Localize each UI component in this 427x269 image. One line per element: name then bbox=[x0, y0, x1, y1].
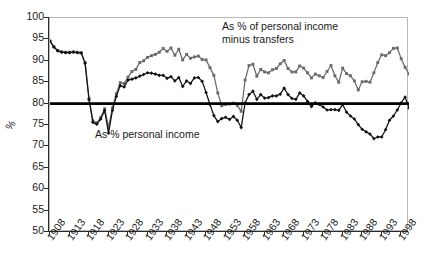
y-tick-mark bbox=[44, 231, 48, 232]
upper-annotation-line2: minus transfers bbox=[222, 33, 294, 45]
plot-area bbox=[49, 17, 408, 231]
y-tick-label: 50 bbox=[18, 225, 44, 235]
x-tick-mark bbox=[186, 232, 187, 236]
y-tick-label: 95 bbox=[18, 32, 44, 42]
y-tick-mark bbox=[44, 167, 48, 168]
x-tick-mark bbox=[205, 232, 206, 236]
y-tick-mark bbox=[44, 124, 48, 125]
x-tick-mark bbox=[69, 232, 70, 236]
x-tick-mark bbox=[264, 232, 265, 236]
y-tick-mark bbox=[44, 60, 48, 61]
x-tick-mark bbox=[49, 232, 50, 236]
chart-root: 10095908580757065605550 % 19081913191819… bbox=[0, 0, 427, 269]
x-tick-mark bbox=[381, 232, 382, 236]
y-tick-label: 65 bbox=[18, 161, 44, 171]
x-tick-mark bbox=[108, 232, 109, 236]
y-tick-label: 85 bbox=[18, 75, 44, 85]
x-tick-mark bbox=[303, 232, 304, 236]
y-tick-mark bbox=[44, 103, 48, 104]
x-tick-mark bbox=[342, 232, 343, 236]
x-tick-mark bbox=[400, 232, 401, 236]
x-tick-mark bbox=[127, 232, 128, 236]
y-axis-labels: 10095908580757065605550 bbox=[10, 0, 44, 269]
series-canvas bbox=[50, 18, 409, 232]
y-tick-mark bbox=[44, 17, 48, 18]
y-tick-label: 60 bbox=[18, 182, 44, 192]
x-tick-mark bbox=[283, 232, 284, 236]
y-tick-mark bbox=[44, 38, 48, 39]
y-tick-label: 70 bbox=[18, 139, 44, 149]
y-tick-label: 75 bbox=[18, 118, 44, 128]
y-tick-label: 80 bbox=[18, 97, 44, 107]
lower-series-annotation: As % personal income bbox=[95, 128, 199, 141]
x-tick-mark bbox=[147, 232, 148, 236]
y-tick-mark bbox=[44, 188, 48, 189]
y-tick-label: 100 bbox=[18, 11, 44, 21]
series-lower-line bbox=[50, 39, 409, 140]
y-tick-mark bbox=[44, 81, 48, 82]
series-upper-line bbox=[50, 40, 409, 129]
x-tick-mark bbox=[322, 232, 323, 236]
y-tick-mark bbox=[44, 145, 48, 146]
upper-annotation-line1: As % of personal income bbox=[222, 20, 338, 32]
y-tick-label: 90 bbox=[18, 54, 44, 64]
x-tick-mark bbox=[244, 232, 245, 236]
y-tick-label: 55 bbox=[18, 204, 44, 214]
x-tick-mark bbox=[88, 232, 89, 236]
x-tick-mark bbox=[225, 232, 226, 236]
chart-title bbox=[0, 0, 427, 6]
x-tick-mark bbox=[361, 232, 362, 236]
upper-series-annotation: As % of personal incomeminus transfers bbox=[222, 20, 338, 45]
x-tick-mark bbox=[166, 232, 167, 236]
y-tick-mark bbox=[44, 210, 48, 211]
